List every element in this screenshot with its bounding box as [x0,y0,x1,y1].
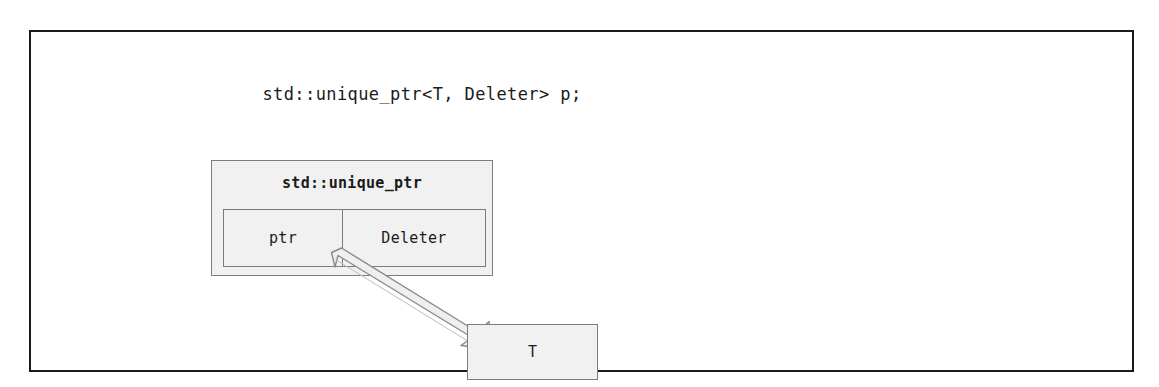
member-cell-ptr: ptr [224,210,343,266]
declaration-text: std::unique_ptr<T, Deleter> p; [207,84,637,104]
unique-ptr-object-box: std::unique_ptr ptr Deleter [211,160,493,276]
member-cell-deleter: Deleter [343,210,485,266]
pointee-label: T [528,343,537,361]
figure-frame: std::unique_ptr<T, Deleter> p; std::uniq… [29,30,1134,372]
unique-ptr-members-row: ptr Deleter [223,209,486,267]
unique-ptr-title: std::unique_ptr [212,174,492,192]
pointee-object-box: T [467,324,598,380]
diagram-page: std::unique_ptr<T, Deleter> p; std::uniq… [0,0,1159,387]
